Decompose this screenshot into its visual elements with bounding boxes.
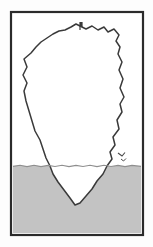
iceberg-illustration [0,0,153,247]
illustration-root [0,0,153,247]
mast-flag-icon [80,22,83,27]
